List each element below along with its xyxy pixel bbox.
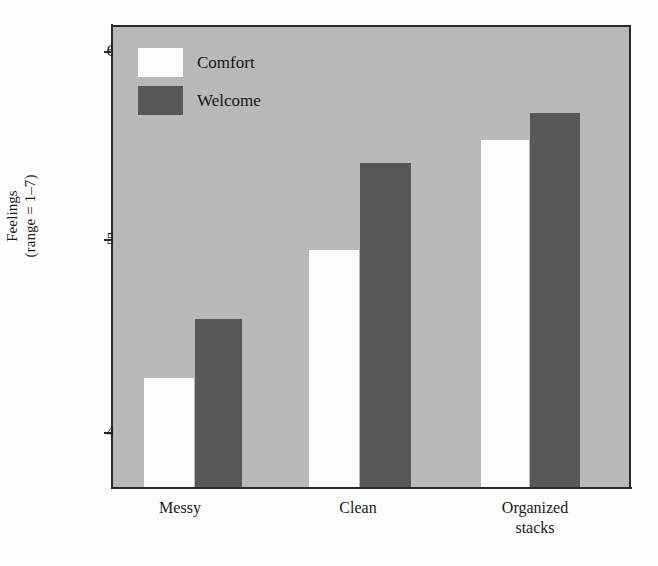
category-label-organized-stacks: Organized stacks [470, 498, 600, 537]
y-tick-label-6: 6 [79, 42, 115, 59]
y-tick-label-5: 5 [79, 230, 115, 247]
plot-area: Comfort Welcome [113, 25, 631, 487]
legend-swatch-welcome-icon [138, 86, 183, 115]
bar-messy-comfort [144, 378, 194, 487]
legend-label-comfort: Comfort [197, 54, 255, 71]
legend: Comfort Welcome [138, 47, 368, 123]
legend-entry-comfort: Comfort [138, 47, 368, 77]
y-tick-label-4: 4 [79, 423, 115, 440]
category-label-messy: Messy [120, 498, 240, 518]
bar-clean-comfort [309, 250, 359, 487]
bar-messy-welcome [195, 319, 242, 487]
bar-organized-stacks-comfort [481, 140, 529, 487]
y-axis-title-line-2: (range = 1–7) [22, 136, 40, 296]
legend-label-welcome: Welcome [197, 92, 261, 109]
category-label-messy-line-1: Messy [120, 498, 240, 518]
y-axis-title-line-1: Feelings [4, 136, 22, 296]
legend-entry-welcome: Welcome [138, 85, 368, 115]
category-label-organized-stacks-line-2: stacks [470, 518, 600, 538]
bar-organized-stacks-welcome [530, 113, 580, 487]
category-label-organized-stacks-line-1: Organized [470, 498, 600, 518]
category-label-clean-line-1: Clean [298, 498, 418, 518]
legend-swatch-comfort-icon [138, 48, 183, 77]
x-axis-line [111, 487, 632, 489]
bar-clean-welcome [360, 163, 411, 487]
y-axis-title: Feelings (range = 1–7) [4, 136, 60, 296]
category-label-clean: Clean [298, 498, 418, 518]
bar-chart-figure: Feelings (range = 1–7) 6 5 4 Comfort [0, 0, 658, 566]
